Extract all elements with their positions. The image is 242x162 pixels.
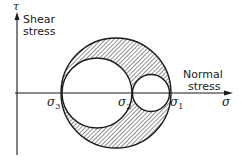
y-axis-label-line1: Shear	[23, 14, 55, 25]
y-axis-label-line2: stress	[23, 26, 56, 37]
sigma-symbol: σ	[222, 96, 230, 108]
mohr-circle-diagram: τ Shear stress Normal stress σ σ3 σ2 σ1	[0, 0, 242, 162]
x-axis-label-line1: Normal	[183, 69, 223, 80]
sigma1-label: σ1	[170, 96, 183, 111]
tau-symbol: τ	[13, 1, 19, 12]
sigma3-label: σ3	[47, 96, 60, 111]
x-axis-label-line2: stress	[188, 81, 221, 92]
sigma2-label: σ2	[118, 96, 131, 111]
